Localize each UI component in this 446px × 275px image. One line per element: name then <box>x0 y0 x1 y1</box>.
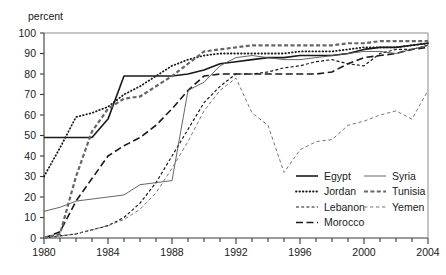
x-axis-tick-label: 1996 <box>288 246 312 258</box>
chart-container: 0102030405060708090100198019841988199219… <box>0 0 446 275</box>
x-axis-tick-label: 1984 <box>96 246 120 258</box>
y-axis-tick-label: 20 <box>24 191 36 203</box>
series-line-jordan <box>44 43 428 176</box>
y-axis-tick-label: 80 <box>24 68 36 80</box>
x-axis-tick-label: 1992 <box>224 246 248 258</box>
x-axis-tick-label: 2000 <box>352 246 376 258</box>
y-axis-tick-label: 90 <box>24 47 36 59</box>
legend-label-jordan[interactable]: Jordan <box>324 185 356 197</box>
y-axis-tick-label: 100 <box>18 27 36 39</box>
legend-label-tunisia[interactable]: Tunisia <box>392 185 426 197</box>
y-axis-tick-label: 0 <box>30 232 36 244</box>
legend-label-lebanon[interactable]: Lebanon <box>324 201 365 213</box>
y-axis-tick-label: 70 <box>24 88 36 100</box>
y-axis-tick-label: 40 <box>24 150 36 162</box>
legend-label-egypt[interactable]: Egypt <box>324 170 351 182</box>
legend-label-yemen[interactable]: Yemen <box>392 201 424 213</box>
x-axis-tick-label: 2004 <box>416 246 440 258</box>
y-axis-title: percent <box>28 10 63 22</box>
y-axis-tick-label: 30 <box>24 170 36 182</box>
x-axis-tick-label: 1988 <box>160 246 184 258</box>
y-axis-tick-label: 50 <box>24 129 36 141</box>
y-axis-tick-label: 60 <box>24 109 36 121</box>
x-axis-tick-label: 1980 <box>32 246 56 258</box>
legend-label-morocco[interactable]: Morocco <box>324 216 364 228</box>
y-axis-tick-label: 10 <box>24 211 36 223</box>
legend-label-syria[interactable]: Syria <box>392 170 416 182</box>
line-chart: 0102030405060708090100198019841988199219… <box>0 0 446 275</box>
